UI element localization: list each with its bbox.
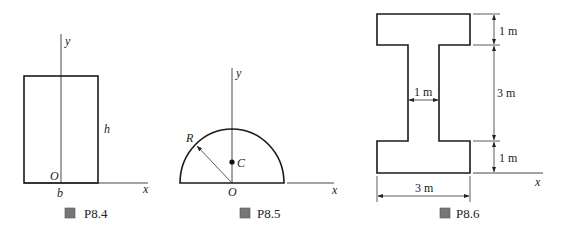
caption-p8-4: P8.4 — [65, 206, 108, 221]
y-axis-label: y — [64, 34, 71, 48]
web-width-label: 1 m — [414, 85, 433, 99]
caption-p8-5: P8.5 — [240, 206, 280, 221]
diagram-canvas: y x O b h P8.4 y x O R C P8.5 x — [0, 0, 563, 238]
caption-p8-6: P8.6 — [440, 206, 480, 221]
x-axis-label: x — [142, 182, 149, 196]
radius-label: R — [185, 131, 194, 145]
origin-label: O — [228, 185, 237, 199]
caption-text: P8.5 — [257, 206, 280, 221]
figure-p8-4: y x O b h P8.4 — [24, 34, 149, 221]
caption-text: P8.4 — [84, 206, 108, 221]
width-label: b — [57, 186, 63, 200]
caption-text: P8.6 — [456, 206, 480, 221]
figure-p8-6: x 1 m 3 m 1 m 1 m 3 m P8.6 — [377, 14, 543, 221]
height-label: h — [104, 122, 110, 136]
x-axis-label: x — [331, 183, 338, 197]
x-axis-label: x — [534, 175, 541, 189]
web-height-label: 3 m — [497, 86, 516, 100]
bottom-flange-label: 1 m — [499, 151, 518, 165]
flange-width-label: 3 m — [415, 181, 434, 195]
radius-arrow — [197, 146, 232, 183]
top-flange-label: 1 m — [499, 24, 518, 38]
figure-icon — [240, 208, 250, 218]
origin-label: O — [50, 169, 59, 183]
y-axis-label: y — [235, 66, 242, 80]
figure-icon — [440, 208, 450, 218]
figure-icon — [65, 208, 75, 218]
centroid-label: C — [237, 156, 246, 170]
centroid-point — [229, 159, 234, 164]
figure-p8-5: y x O R C P8.5 — [180, 66, 338, 221]
